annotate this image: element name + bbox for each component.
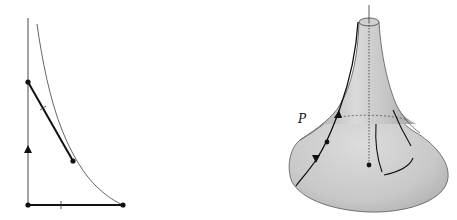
point-on-geodesic bbox=[325, 140, 330, 145]
tractrix-curve bbox=[37, 24, 123, 205]
figure-canvas bbox=[0, 0, 457, 220]
arrow-up-icon bbox=[24, 145, 32, 153]
point-tangent bbox=[70, 158, 75, 163]
tractrix-diagram bbox=[24, 18, 126, 209]
point-top bbox=[25, 79, 30, 84]
pseudosphere-diagram bbox=[289, 5, 448, 212]
point-right bbox=[120, 202, 125, 207]
axis-base-point bbox=[367, 163, 372, 168]
point-origin bbox=[25, 202, 30, 207]
point-p-label: P bbox=[298, 112, 306, 126]
